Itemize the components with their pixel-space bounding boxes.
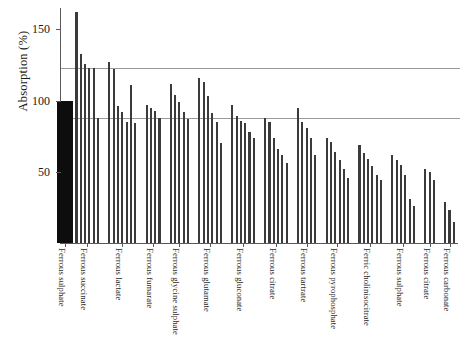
bar [253,138,255,243]
x-tick [450,243,451,247]
bar [358,145,360,243]
bar [231,105,233,243]
bar [170,84,172,244]
x-axis-labels: Ferrous sulphateFerrous succinateFerrous… [60,248,458,352]
bar [93,68,95,243]
bar [187,119,189,243]
bar [433,180,435,243]
x-tick [370,243,371,247]
bar [301,122,303,243]
y-tick-100: 100 [56,101,61,102]
bar [174,95,176,243]
x-axis-label: Ferrous glycine sulphate [171,248,181,335]
x-tick [210,243,211,247]
bar [429,172,431,243]
x-axis-label: Ferrous pyrophosphate [329,248,339,329]
x-tick [337,243,338,247]
bar [376,175,378,243]
x-tick [276,243,277,247]
bar [154,111,156,243]
y-tick-label-150: 150 [32,23,50,38]
x-axis-label: Ferrous succinate [79,248,89,310]
x-tick [430,243,431,247]
x-tick [65,243,66,247]
bar [409,199,411,243]
bar [216,122,218,243]
bar [108,62,110,243]
x-axis-label: Ferrous citrate [422,248,432,299]
bar [347,178,349,244]
bar [203,82,205,243]
x-tick [179,243,180,247]
x-tick [403,243,404,247]
bar [248,132,250,243]
bar [330,142,332,243]
bar [75,12,77,243]
bar [198,78,200,243]
bar [121,112,123,243]
bar [326,138,328,243]
bar [314,155,316,243]
bar [134,123,136,243]
x-axis-label: Ferrous citrate [268,248,278,299]
bar [297,108,299,243]
x-tick [153,243,154,247]
bar [413,206,415,243]
bar [343,169,345,243]
bar [117,106,119,243]
bar [273,138,275,243]
x-axis-label: Ferrous sulphate [395,248,405,307]
x-axis-label: Ferrous fumarate [145,248,155,309]
upper-reference-line [61,68,460,69]
x-tick [243,243,244,247]
x-tick [307,243,308,247]
bar [391,155,393,243]
x-axis-label: Ferric cholinisocitrate [362,248,372,326]
bar [183,112,185,243]
bar [363,153,365,243]
bar [236,116,238,243]
bar [126,122,128,243]
bar [396,160,398,243]
bar [146,105,148,243]
bar [97,118,99,243]
x-tick [87,243,88,247]
bar [113,69,115,243]
bar [211,113,213,243]
bar [453,222,455,243]
bar [444,202,446,243]
bar [380,180,382,243]
x-tick [122,243,123,247]
y-tick-label-100: 100 [32,94,50,109]
x-axis-label: Ferrous carbonate [442,248,452,312]
bar [207,96,209,243]
bar [424,169,426,243]
bar [286,163,288,243]
y-tick-50: 50 [56,172,61,173]
bar [244,123,246,243]
x-axis-label: Ferrous lactate [114,248,124,300]
bar [400,165,402,243]
x-axis-label: Ferrous glutamate [202,248,212,312]
bar [84,64,86,243]
x-axis-label: Ferrous sulphate [57,248,67,307]
chart-figure: Absorption (%) 50100150 Ferrous sulphate… [0,0,462,356]
bar [220,143,222,243]
bar [310,138,312,243]
bar [80,54,82,243]
bar [178,102,180,243]
bar [371,166,373,243]
bar [277,149,279,243]
bar [264,118,266,243]
bar [158,118,160,243]
bar [281,155,283,243]
bar [334,152,336,243]
bar [339,160,341,243]
bar [130,85,132,243]
bar [448,210,450,243]
bar [404,175,406,243]
x-axis-label: Ferrous gluconate [235,248,245,312]
bar [240,121,242,243]
bar [367,159,369,243]
bar [306,128,308,243]
